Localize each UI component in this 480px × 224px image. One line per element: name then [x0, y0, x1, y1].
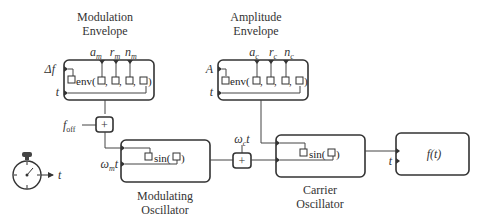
carrier-oscillator-title-1: Carrier	[303, 183, 337, 197]
param-r-m: rm	[110, 45, 121, 61]
env-function-label: env(	[230, 75, 250, 88]
output-block[interactable]: t f(t)	[389, 133, 469, 175]
param-a-c: ac	[249, 45, 259, 61]
modulation-envelope-title-2: Envelope	[82, 24, 127, 38]
carrier-oscillator-title-2: Oscillator	[296, 197, 343, 211]
offset-adder[interactable]: foff +	[63, 117, 124, 148]
modulating-oscillator-title-1: Modulating	[137, 189, 193, 203]
plus-symbol: +	[239, 154, 246, 168]
env-function-label: env(	[76, 75, 96, 88]
clock-icon: t	[13, 152, 62, 189]
svg-text:,: ,	[260, 75, 263, 87]
param-a-m: am	[90, 45, 102, 61]
output-t-label: t	[389, 154, 393, 168]
amplitude-envelope-title-1: Amplitude	[230, 10, 281, 24]
omega-m-t-label: ωmt	[100, 157, 118, 173]
plus-symbol: +	[101, 118, 108, 132]
clock-output-t: t	[58, 168, 62, 182]
svg-text:,: ,	[289, 75, 292, 87]
carrier-adder[interactable]: ωct +	[233, 132, 279, 168]
carrier-oscillator-block[interactable]: sin( ) Carrier Oscillator	[276, 135, 396, 211]
input-t: t	[210, 85, 214, 99]
input-t: t	[56, 85, 60, 99]
svg-text:): )	[336, 148, 340, 161]
modulating-oscillator-title-2: Oscillator	[141, 203, 188, 217]
f-off-label: foff	[63, 118, 76, 134]
modulation-envelope-title-1: Modulation	[77, 10, 133, 24]
svg-text:,: ,	[274, 75, 277, 87]
svg-text:): )	[148, 75, 152, 88]
svg-text:,: ,	[133, 75, 136, 87]
input-delta-f: Δf	[44, 62, 57, 76]
param-r-c: rc	[269, 45, 278, 61]
param-n-c: nc	[284, 45, 294, 61]
svg-text:): )	[181, 152, 185, 165]
output-function-label: f(t)	[427, 147, 442, 161]
svg-text:,: ,	[105, 75, 108, 87]
svg-text:): )	[304, 75, 308, 88]
input-A: A	[205, 62, 214, 76]
param-n-m: nm	[125, 45, 137, 61]
sin-function-label: sin(	[154, 152, 171, 165]
modulating-oscillator-block[interactable]: ωmt sin( ) Modulating Oscillator	[100, 140, 233, 217]
amplitude-envelope-block[interactable]: Amplitude Envelope ac rc nc A t env( , ,…	[205, 10, 308, 143]
synthesis-diagram: Modulation Envelope am rm nm Δf t env( ,…	[0, 0, 480, 224]
sin-function-label: sin(	[309, 148, 326, 161]
svg-text:,: ,	[119, 75, 122, 87]
amplitude-envelope-title-2: Envelope	[233, 24, 278, 38]
modulation-envelope-block[interactable]: Modulation Envelope am rm nm Δf t env( ,…	[44, 10, 154, 114]
